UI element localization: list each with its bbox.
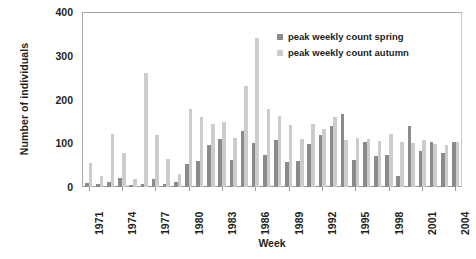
- bar-autumn: [166, 159, 170, 187]
- bar-group: [194, 12, 205, 187]
- x-axis-tick-label: 1998: [394, 191, 405, 235]
- bar-group: [128, 12, 139, 187]
- y-axis-tick-labels: 0100200300400: [36, 6, 76, 193]
- bar-chart: Number of individuals 0100200300400 1971…: [0, 0, 476, 259]
- bar-autumn: [244, 86, 248, 188]
- legend-swatch-icon: [277, 34, 283, 40]
- bar-autumn: [411, 143, 415, 187]
- bar-group: [105, 12, 116, 187]
- x-axis-tick-label: 1977: [160, 191, 171, 235]
- y-axis-tick-label: 400: [55, 7, 73, 18]
- bar-autumn: [456, 142, 460, 187]
- bar-group: [250, 12, 261, 187]
- bar-autumn: [433, 144, 437, 187]
- x-axis-tick-labels: 1971197419771980198319861989199219951998…: [83, 191, 461, 235]
- bar-autumn: [211, 124, 215, 187]
- x-axis-tick-label: 2004: [460, 191, 471, 235]
- bar-autumn: [100, 176, 104, 187]
- bar-group: [217, 12, 228, 187]
- bar-group: [261, 12, 272, 187]
- bar-autumn: [445, 145, 449, 187]
- x-axis-tick-label: 1995: [360, 191, 371, 235]
- bar-autumn: [122, 153, 126, 187]
- x-axis-title: Week: [83, 236, 461, 250]
- x-axis-tick-label: 1989: [294, 191, 305, 235]
- bar-autumn: [422, 140, 426, 187]
- bar-autumn: [267, 109, 271, 187]
- legend-label: peak weekly count spring: [288, 31, 404, 42]
- bar-autumn: [300, 139, 304, 187]
- bar-autumn: [178, 174, 182, 187]
- bar-autumn: [144, 73, 148, 187]
- bar-autumn: [278, 116, 282, 187]
- y-axis-tick-label: 200: [55, 94, 73, 105]
- bar-group: [150, 12, 161, 187]
- legend-entry: peak weekly count spring: [277, 31, 409, 42]
- bar-autumn: [200, 117, 204, 187]
- x-axis-tick-label: 1974: [127, 191, 138, 235]
- bar-autumn: [111, 134, 115, 187]
- bar-autumn: [89, 163, 93, 188]
- y-axis-tick-label: 100: [55, 138, 73, 149]
- legend-label: peak weekly count autumn: [288, 47, 409, 58]
- bar-group: [428, 12, 439, 187]
- chart-legend: peak weekly count springpeak weekly coun…: [277, 31, 409, 58]
- bar-autumn: [289, 125, 293, 187]
- bar-group: [205, 12, 216, 187]
- bar-group: [450, 12, 461, 187]
- y-axis-tick-label: 300: [55, 50, 73, 61]
- bar-autumn: [311, 124, 315, 187]
- legend-entry: peak weekly count autumn: [277, 47, 409, 58]
- bar-autumn: [189, 109, 193, 187]
- bar-autumn: [344, 140, 348, 187]
- bar-group: [83, 12, 94, 187]
- bar-autumn: [367, 139, 371, 187]
- bar-group: [116, 12, 127, 187]
- bar-group: [439, 12, 450, 187]
- x-axis-tick-label: 1971: [94, 191, 105, 235]
- bar-group: [183, 12, 194, 187]
- x-axis-tick-label: 1986: [260, 191, 271, 235]
- y-axis-tick-label: 0: [67, 182, 73, 193]
- bar-group: [139, 12, 150, 187]
- bar-autumn: [155, 135, 159, 187]
- bar-group: [228, 12, 239, 187]
- bar-autumn: [356, 138, 360, 187]
- bar-autumn: [378, 141, 382, 187]
- bar-group: [161, 12, 172, 187]
- bar-group: [94, 12, 105, 187]
- bar-autumn: [255, 38, 259, 187]
- bar-autumn: [133, 179, 137, 187]
- x-axis-tick-label: 2001: [427, 191, 438, 235]
- bar-autumn: [389, 134, 393, 187]
- bar-autumn: [322, 129, 326, 187]
- bar-autumn: [222, 122, 226, 187]
- bar-autumn: [333, 117, 337, 187]
- y-axis-title: Number of individuals: [14, 4, 34, 194]
- bar-group: [172, 12, 183, 187]
- bar-group: [417, 12, 428, 187]
- x-axis-tick-label: 1983: [227, 191, 238, 235]
- x-axis-tick-label: 1992: [327, 191, 338, 235]
- bar-autumn: [400, 142, 404, 187]
- bar-autumn: [233, 138, 237, 187]
- x-axis-tick-label: 1980: [194, 191, 205, 235]
- legend-swatch-icon: [277, 50, 283, 56]
- bar-group: [239, 12, 250, 187]
